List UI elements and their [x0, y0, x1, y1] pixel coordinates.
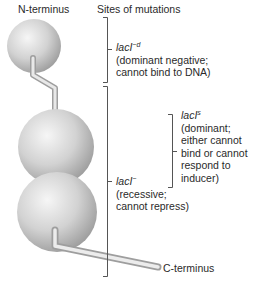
mutation-description-line: cannot bind to DNA) — [116, 66, 211, 79]
c-terminus-label: C-terminus — [163, 262, 214, 275]
bracket-laci-d — [103, 18, 112, 83]
n-terminus-label: N-terminus — [18, 3, 69, 16]
mutation-description-line: bind or cannot — [181, 147, 248, 160]
mutation-laci-minus: lacI− (recessive; cannot repress) — [116, 175, 189, 213]
mutation-superscript: s — [197, 109, 201, 116]
mutation-laci-s: lacIs (dominant; either cannot bind or c… — [181, 109, 248, 184]
mutation-name: lacI — [181, 109, 197, 121]
mutation-description-line: (recessive; — [116, 188, 189, 201]
mutation-name: lacI — [116, 41, 132, 53]
mutation-description-line: (dominant negative; — [116, 54, 211, 67]
mutation-description-line: inducer) — [181, 172, 248, 185]
mutation-superscript: − — [132, 175, 136, 182]
mutation-superscript: −d — [132, 41, 140, 48]
mutation-name: lacI — [116, 175, 132, 187]
mutation-description-line: (dominant; — [181, 122, 248, 135]
mutation-description-line: either cannot — [181, 134, 248, 147]
sites-of-mutations-header: Sites of mutations — [97, 3, 180, 16]
mutation-laci-d: lacI−d (dominant negative; cannot bind t… — [116, 41, 211, 79]
mutation-description-line: respond to — [181, 159, 248, 172]
bracket-laci-minus — [103, 87, 112, 277]
mutation-description-line: cannot repress) — [116, 200, 189, 213]
